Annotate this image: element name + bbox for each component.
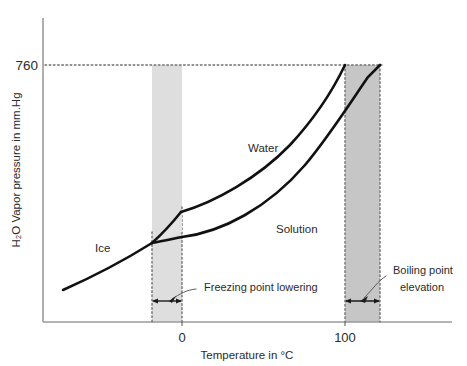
x-tick-label-100: 100	[334, 330, 356, 345]
vapor-pressure-diagram: 760 0 100 Temperature in °C H₂O Vapor pr…	[0, 0, 467, 366]
y-tick-label-760: 760	[15, 58, 38, 73]
boiling-point-elevation-label-line2: elevation	[400, 281, 444, 293]
chart-background	[0, 0, 467, 366]
y-axis-title: H₂O Vapor pressure in mm.Hg	[10, 92, 22, 247]
boiling-point-elevation-label-line1: Boiling point	[393, 264, 453, 276]
freezing-point-lowering-band	[152, 65, 182, 322]
freezing-point-lowering-label: Freezing point lowering	[204, 281, 318, 293]
water-curve-label: Water	[248, 142, 278, 154]
solution-curve-label: Solution	[276, 223, 318, 235]
x-axis-title: Temperature in °C	[201, 349, 294, 361]
ice-curve-label: Ice	[95, 242, 110, 254]
x-tick-label-0: 0	[178, 330, 185, 345]
